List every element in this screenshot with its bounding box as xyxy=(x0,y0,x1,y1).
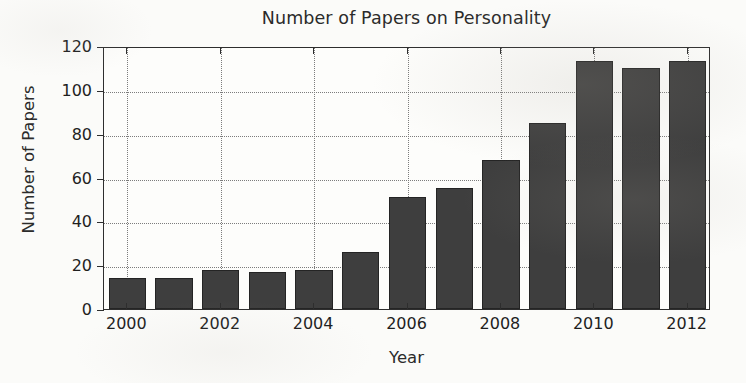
x-tick-label: 2010 xyxy=(573,314,614,333)
bar-2009 xyxy=(529,123,566,309)
y-tick-mark xyxy=(97,135,104,136)
bar-2003 xyxy=(249,272,286,309)
bar-2001 xyxy=(155,278,192,309)
x-tick-mark-top xyxy=(126,47,127,54)
x-tick-mark-top xyxy=(593,47,594,54)
bar-series xyxy=(104,48,709,309)
x-tick-label: 2000 xyxy=(106,314,147,333)
x-tick-mark-top xyxy=(687,47,688,54)
y-tick-label: 100 xyxy=(61,81,92,100)
bar-2010 xyxy=(576,61,613,309)
x-axis-label: Year xyxy=(103,348,710,367)
x-tick-label: 2012 xyxy=(666,314,707,333)
x-tick-mark-bottom xyxy=(407,303,408,310)
x-tick-mark-bottom xyxy=(313,303,314,310)
y-tick-mark xyxy=(97,222,104,223)
y-tick-label: 0 xyxy=(82,300,92,319)
y-tick-label: 80 xyxy=(72,125,92,144)
bar-2006 xyxy=(389,197,426,309)
y-tick-label: 40 xyxy=(72,212,92,231)
x-tick-label: 2002 xyxy=(199,314,240,333)
x-tick-label: 2006 xyxy=(386,314,427,333)
y-tick-mark xyxy=(97,47,104,48)
x-tick-mark-top xyxy=(313,47,314,54)
bar-2002 xyxy=(202,270,239,309)
plot-area xyxy=(103,47,710,310)
y-tick-label: 60 xyxy=(72,169,92,188)
bar-chart-figure: Number of Papers on Personality Number o… xyxy=(0,0,746,383)
chart-title: Number of Papers on Personality xyxy=(103,8,710,28)
y-tick-mark xyxy=(97,310,104,311)
bar-2012 xyxy=(669,61,706,309)
x-tick-mark-bottom xyxy=(687,303,688,310)
y-tick-label: 20 xyxy=(72,256,92,275)
x-tick-mark-bottom xyxy=(220,303,221,310)
x-tick-mark-top xyxy=(407,47,408,54)
x-tick-label: 2004 xyxy=(293,314,334,333)
bar-2007 xyxy=(436,188,473,309)
y-tick-mark xyxy=(97,266,104,267)
bar-2004 xyxy=(295,270,332,309)
x-tick-mark-top xyxy=(500,47,501,54)
y-tick-mark xyxy=(97,179,104,180)
bar-2008 xyxy=(482,160,519,309)
y-axis-label: Number of Papers xyxy=(19,70,38,250)
x-tick-mark-bottom xyxy=(126,303,127,310)
x-tick-mark-bottom xyxy=(593,303,594,310)
y-tick-label: 120 xyxy=(61,37,92,56)
y-tick-mark xyxy=(97,91,104,92)
x-tick-mark-top xyxy=(220,47,221,54)
bar-2005 xyxy=(342,252,379,309)
x-tick-label: 2008 xyxy=(480,314,521,333)
x-tick-mark-bottom xyxy=(500,303,501,310)
bar-2011 xyxy=(622,68,659,309)
